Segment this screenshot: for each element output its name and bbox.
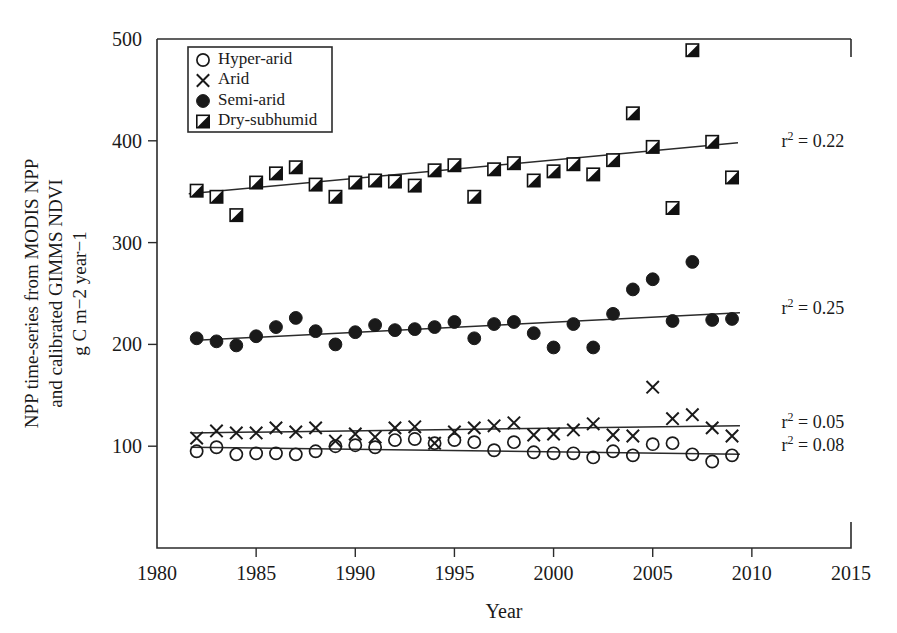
- data-point: [686, 256, 699, 269]
- npp-scatter-chart: 1002003004005001980198519901995200020052…: [0, 0, 897, 633]
- x-tick-label-2015: 2015: [831, 562, 871, 584]
- open-circle-icon: [627, 449, 639, 461]
- data-point: [210, 425, 222, 437]
- cross-icon: [468, 422, 480, 434]
- r2-semi-arid: r2 = 0.25: [782, 296, 845, 318]
- filled-circle-icon: [250, 330, 263, 343]
- filled-circle-icon: [190, 332, 203, 345]
- cross-icon: [210, 425, 222, 437]
- chart-legend: Hyper-aridAridSemi-aridDry-subhumid: [188, 47, 332, 132]
- filled-circle-icon: [230, 339, 243, 352]
- data-point: [508, 316, 521, 329]
- x-tick-label-1990: 1990: [335, 562, 375, 584]
- x-tick-label-1995: 1995: [434, 562, 474, 584]
- data-point: [290, 448, 302, 460]
- x-tick-label-1985: 1985: [236, 562, 276, 584]
- axis-titles-group: YearNPP time-series from MODIS NPPand ca…: [21, 159, 523, 622]
- data-point: [706, 136, 718, 148]
- data-point: [627, 430, 639, 442]
- data-point: [567, 318, 580, 331]
- open-circle-icon: [666, 437, 678, 449]
- y-tick-label-100: 100: [112, 435, 142, 457]
- data-point: [706, 314, 719, 327]
- cross-icon: [250, 427, 262, 439]
- legend-label-arid: Arid: [218, 69, 250, 88]
- open-circle-icon: [310, 445, 322, 457]
- filled-circle-icon: [706, 314, 719, 327]
- filled-circle-icon: [428, 321, 441, 334]
- open-circle-icon: [607, 445, 619, 457]
- data-point: [190, 332, 203, 345]
- x-tick-label-1980: 1980: [137, 562, 177, 584]
- r2-arid: r2 = 0.05: [782, 410, 845, 432]
- legend-label-hyper-arid: Hyper-arid: [218, 49, 293, 68]
- filled-circle-icon: [686, 256, 699, 269]
- data-point: [190, 184, 202, 196]
- data-point: [666, 202, 678, 214]
- data-point: [428, 321, 441, 334]
- data-point: [508, 157, 520, 169]
- data-point: [587, 168, 599, 180]
- data-point: [409, 421, 421, 433]
- data-point: [230, 339, 243, 352]
- x-tick-label-2005: 2005: [633, 562, 673, 584]
- data-point: [270, 167, 282, 179]
- data-point: [666, 413, 678, 425]
- open-circle-icon: [369, 441, 381, 453]
- trend-lines-group: [189, 143, 740, 455]
- data-point: [647, 141, 659, 153]
- data-point: [626, 283, 639, 296]
- filled-circle-icon: [508, 316, 521, 329]
- filled-circle-icon: [666, 315, 679, 328]
- data-point: [349, 176, 361, 188]
- cross-icon: [627, 430, 639, 442]
- data-point: [230, 209, 242, 221]
- filled-circle-icon: [197, 95, 210, 108]
- filled-circle-icon: [646, 273, 659, 286]
- open-circle-icon: [567, 447, 579, 459]
- data-point: [528, 174, 540, 186]
- filled-circle-icon: [289, 312, 302, 325]
- data-point: [468, 422, 480, 434]
- data-point: [547, 165, 559, 177]
- r2-hyper-arid: r2 = 0.08: [782, 433, 845, 455]
- figure-root: 1002003004005001980198519901995200020052…: [0, 0, 897, 633]
- data-point: [488, 444, 500, 456]
- data-point: [607, 445, 619, 457]
- data-point: [230, 448, 242, 460]
- open-circle-icon: [290, 448, 302, 460]
- data-point: [250, 176, 262, 188]
- filled-circle-icon: [369, 319, 382, 332]
- data-point: [528, 429, 540, 441]
- data-point: [686, 408, 698, 420]
- data-point: [369, 174, 381, 186]
- cross-icon: [508, 417, 520, 429]
- data-point: [468, 191, 480, 203]
- filled-circle-icon: [389, 324, 402, 337]
- data-point: [250, 330, 263, 343]
- data-point: [310, 445, 322, 457]
- data-point: [210, 335, 223, 348]
- data-point: [627, 449, 639, 461]
- data-point: [607, 154, 619, 166]
- data-point: [290, 161, 302, 173]
- y-axis-title-line-2: and calibrated GIMMS NDVI: [45, 179, 66, 407]
- data-point: [468, 436, 480, 448]
- data-point: [309, 178, 321, 190]
- open-circle-icon: [250, 447, 262, 459]
- data-point: [389, 434, 401, 446]
- y-axis-title-line-3: g C m−2 year−1: [69, 231, 90, 355]
- open-circle-icon: [647, 438, 659, 450]
- data-point: [666, 315, 679, 328]
- cross-icon: [528, 429, 540, 441]
- y-tick-label-500: 500: [112, 28, 142, 50]
- legend-marker-semi-arid: [197, 95, 210, 108]
- y-tick-label-200: 200: [112, 333, 142, 355]
- open-circle-icon: [488, 444, 500, 456]
- data-point: [448, 434, 460, 446]
- legend-label-semi-arid: Semi-arid: [218, 90, 286, 109]
- y-tick-label-400: 400: [112, 130, 142, 152]
- open-circle-icon: [706, 455, 718, 467]
- filled-circle-icon: [626, 283, 639, 296]
- data-point: [389, 324, 402, 337]
